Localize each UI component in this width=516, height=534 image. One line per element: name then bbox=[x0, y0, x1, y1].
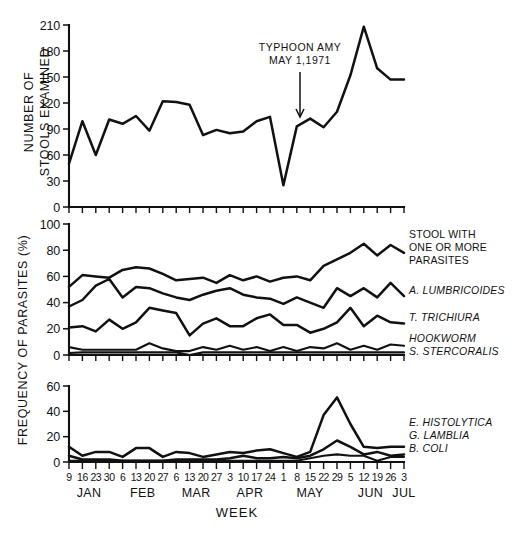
top-panel-axes bbox=[63, 25, 404, 213]
x-week-label: 26 bbox=[385, 471, 396, 483]
y-tick-label: 60 bbox=[46, 380, 60, 394]
x-week-label: 27 bbox=[211, 471, 222, 483]
bottom-series-labels: E. HISTOLYTICA G. LAMBLIA B. COLI bbox=[409, 416, 492, 454]
label-a-lumbricoides: A. LUMBRICOIDES bbox=[408, 284, 505, 296]
x-week-label: 30 bbox=[104, 471, 115, 483]
bottom-y-tick-labels: 0204060 bbox=[46, 380, 60, 470]
typhoon-annotation: TYPHOON AMY MAY 1,1971 bbox=[259, 41, 342, 117]
x-month-label: JUL bbox=[392, 486, 415, 500]
x-week-label: 13 bbox=[184, 471, 195, 483]
x-week-label: 17 bbox=[251, 471, 262, 483]
parasite-frequency-figure: 0306090120150180210 NUMBER OF STOOLS EXA… bbox=[0, 0, 516, 534]
series-a-lumbricoides bbox=[69, 279, 404, 308]
y-tick-label: 60 bbox=[46, 270, 60, 284]
label-hookworm: HOOKWORM bbox=[409, 332, 476, 344]
x-axis-month-labels: JANFEBMARAPRMAYJUNJUL bbox=[77, 486, 416, 500]
x-month-label: JAN bbox=[77, 486, 102, 500]
annotation-line1: TYPHOON AMY bbox=[259, 41, 342, 53]
x-week-label: 22 bbox=[318, 471, 329, 483]
y-tick-label: 40 bbox=[46, 296, 60, 310]
middle-panel-axes bbox=[63, 224, 404, 361]
x-week-label: 20 bbox=[144, 471, 155, 483]
x-week-label: 12 bbox=[358, 471, 369, 483]
x-month-label: MAR bbox=[182, 486, 211, 500]
top-panel: 0306090120150180210 NUMBER OF STOOLS EXA… bbox=[22, 19, 404, 215]
series-stools-examined bbox=[69, 27, 404, 186]
y-tick-label: 0 bbox=[53, 349, 60, 363]
series-stool-one-or-more-parasites bbox=[69, 244, 404, 287]
x-week-label: 1 bbox=[281, 471, 287, 483]
annotation-line2: MAY 1,1971 bbox=[269, 54, 331, 66]
series-t-trichiura bbox=[69, 308, 404, 336]
y-tick-label: 0 bbox=[53, 456, 60, 470]
x-month-label: JUN bbox=[358, 486, 384, 500]
x-axis-title: WEEK bbox=[216, 505, 258, 520]
middle-axis-lines bbox=[69, 224, 404, 355]
series-hookworm bbox=[69, 343, 404, 351]
label-t-trichiura: T. TRICHIURA bbox=[409, 311, 480, 323]
label-b-coli: B. COLI bbox=[409, 442, 448, 454]
y-tick-label: 20 bbox=[46, 430, 60, 444]
x-week-label: 20 bbox=[198, 471, 209, 483]
label-stool-parasites-line2: ONE OR MORE bbox=[409, 241, 487, 253]
y-tick-label: 80 bbox=[46, 244, 60, 258]
y-tick-label: 20 bbox=[46, 322, 60, 336]
y-tick-label: 40 bbox=[46, 405, 60, 419]
x-week-label: 9 bbox=[66, 471, 72, 483]
y-tick-label: 210 bbox=[40, 19, 61, 33]
frequency-of-parasites-ylabel: FREQUENCY OF PARASITES (%) bbox=[16, 235, 30, 445]
x-week-label: 6 bbox=[120, 471, 126, 483]
x-month-label: FEB bbox=[130, 486, 156, 500]
y-tick-label: 100 bbox=[40, 218, 61, 232]
series-g-lamblia bbox=[69, 441, 404, 461]
label-e-histolytica: E. HISTOLYTICA bbox=[409, 416, 492, 428]
x-week-label: 6 bbox=[174, 471, 180, 483]
top-y-axis-title: NUMBER OF STOOLS EXAMINED bbox=[22, 48, 52, 176]
top-ylabel-line1: NUMBER OF bbox=[22, 72, 36, 152]
x-week-label: 23 bbox=[90, 471, 101, 483]
x-month-label: MAY bbox=[297, 486, 325, 500]
label-g-lamblia: G. LAMBLIA bbox=[409, 429, 469, 441]
bottom-panel: 0204060 E. HISTOLYTICA G. LAMBLIA B. COL… bbox=[46, 380, 492, 470]
middle-panel: 020406080100 STOOL WITH ONE OR MORE PARA… bbox=[40, 218, 505, 363]
bottom-axis-lines bbox=[69, 386, 404, 462]
label-stool-parasites-line3: PARASITES bbox=[409, 254, 469, 266]
x-week-label: 13 bbox=[131, 471, 142, 483]
x-week-label: 3 bbox=[227, 471, 233, 483]
y-tick-label: 0 bbox=[53, 201, 60, 215]
middle-y-tick-labels: 020406080100 bbox=[40, 218, 61, 363]
middle-series-labels: STOOL WITH ONE OR MORE PARASITES A. LUMB… bbox=[408, 228, 505, 357]
x-month-label: APR bbox=[236, 486, 263, 500]
x-week-label: 24 bbox=[265, 471, 276, 483]
top-axis-lines bbox=[69, 25, 404, 207]
x-week-label: 27 bbox=[157, 471, 168, 483]
x-week-label: 3 bbox=[401, 471, 407, 483]
figure-container: 0306090120150180210 NUMBER OF STOOLS EXA… bbox=[0, 0, 516, 534]
x-week-label: 29 bbox=[332, 471, 343, 483]
x-week-label: 16 bbox=[77, 471, 88, 483]
label-stool-parasites-line1: STOOL WITH bbox=[409, 228, 476, 240]
x-week-label: 5 bbox=[348, 471, 354, 483]
label-s-stercoralis: S. STERCORALIS bbox=[409, 345, 499, 357]
x-axis-week-labels: 9162330613202761320273101724181522295121… bbox=[66, 471, 407, 483]
x-week-label: 15 bbox=[305, 471, 316, 483]
x-week-label: 10 bbox=[238, 471, 249, 483]
x-week-label: 8 bbox=[294, 471, 300, 483]
x-week-label: 19 bbox=[372, 471, 383, 483]
top-ylabel-line2: STOOLS EXAMINED bbox=[38, 48, 52, 176]
